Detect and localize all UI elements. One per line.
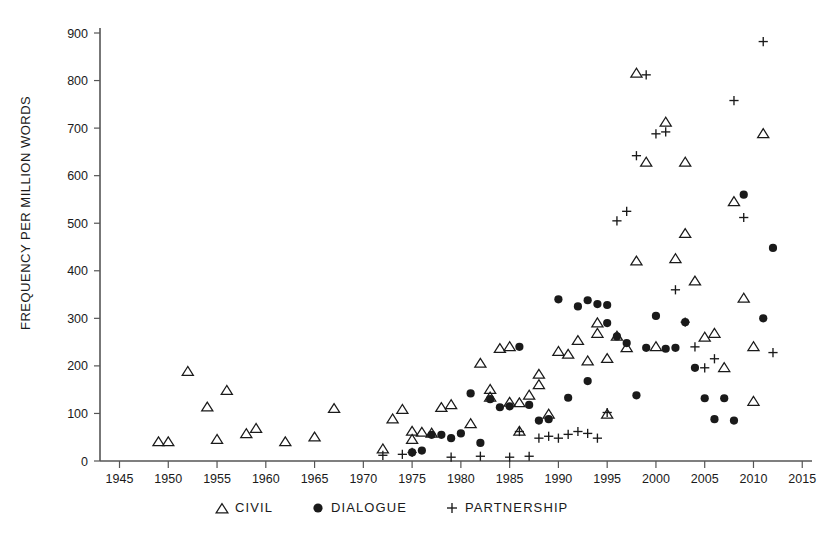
data-point-dialogue	[457, 429, 465, 437]
data-point-dialogue	[525, 401, 533, 409]
x-tick-label: 1955	[203, 472, 231, 486]
data-point-dialogue	[447, 434, 455, 442]
data-point-dialogue	[584, 296, 592, 304]
data-point-dialogue	[496, 403, 504, 411]
y-tick-label: 900	[67, 27, 88, 41]
x-tick-label: 1980	[447, 472, 475, 486]
chart-background	[0, 0, 826, 552]
x-tick-label: 1950	[154, 472, 182, 486]
data-point-dialogue	[486, 395, 494, 403]
data-point-dialogue	[671, 344, 679, 352]
x-tick-label: 2010	[740, 472, 768, 486]
x-tick-label: 1990	[545, 472, 573, 486]
x-tick-label: 2000	[642, 472, 670, 486]
y-tick-label: 200	[67, 359, 88, 373]
data-point-dialogue	[691, 364, 699, 372]
data-point-dialogue	[710, 415, 718, 423]
y-tick-label: 0	[81, 455, 88, 469]
data-point-dialogue	[613, 332, 621, 340]
data-point-dialogue	[476, 439, 484, 447]
y-tick-label: 400	[67, 264, 88, 278]
data-point-dialogue	[418, 446, 426, 454]
data-point-dialogue	[642, 344, 650, 352]
chart-legend: CIVILDIALOGUEPARTNERSHIP	[216, 500, 568, 515]
data-point-dialogue	[623, 339, 631, 347]
x-tick-label: 1965	[301, 472, 329, 486]
y-tick-label: 300	[67, 312, 88, 326]
x-tick-label: 1945	[106, 472, 134, 486]
x-tick-label: 2005	[691, 472, 719, 486]
y-tick-label: 100	[67, 407, 88, 421]
data-point-dialogue	[437, 431, 445, 439]
x-tick-label: 1985	[496, 472, 524, 486]
data-point-dialogue	[701, 394, 709, 402]
scatter-chart: FREQUENCY PER MILLION WORDS 010020030040…	[0, 0, 826, 552]
data-point-dialogue	[652, 312, 660, 320]
data-point-dialogue	[564, 394, 572, 402]
data-point-dialogue	[720, 394, 728, 402]
data-point-dialogue	[730, 416, 738, 424]
data-point-dialogue	[467, 389, 475, 397]
data-point-dialogue	[574, 302, 582, 310]
data-point-dialogue	[506, 402, 514, 410]
data-point-dialogue	[603, 319, 611, 327]
data-point-dialogue	[632, 391, 640, 399]
legend-label-partnership: PARTNERSHIP	[465, 500, 568, 515]
y-tick-label: 500	[67, 217, 88, 231]
data-point-dialogue	[603, 301, 611, 309]
y-tick-label: 600	[67, 169, 88, 183]
x-tick-label: 1970	[349, 472, 377, 486]
x-tick-label: 2015	[788, 472, 816, 486]
legend-label-dialogue: DIALOGUE	[331, 500, 407, 515]
x-tick-label: 1975	[398, 472, 426, 486]
data-point-dialogue	[769, 244, 777, 252]
data-point-dialogue	[554, 295, 562, 303]
x-tick-label: 1995	[593, 472, 621, 486]
data-point-dialogue	[545, 415, 553, 423]
data-point-dialogue	[759, 314, 767, 322]
y-tick-label: 700	[67, 122, 88, 136]
data-point-dialogue	[584, 377, 592, 385]
x-tick-label: 1960	[252, 472, 280, 486]
y-axis-label: FREQUENCY PER MILLION WORDS	[18, 96, 33, 330]
data-point-dialogue	[593, 300, 601, 308]
legend-marker-dialogue	[313, 503, 322, 512]
legend-label-civil: CIVIL	[235, 500, 273, 515]
data-point-dialogue	[515, 343, 523, 351]
data-point-dialogue	[662, 345, 670, 353]
y-tick-label: 800	[67, 74, 88, 88]
data-point-dialogue	[740, 191, 748, 199]
data-point-dialogue	[535, 416, 543, 424]
y-axis-label-text: FREQUENCY PER MILLION WORDS	[18, 96, 33, 330]
data-point-dialogue	[428, 431, 436, 439]
